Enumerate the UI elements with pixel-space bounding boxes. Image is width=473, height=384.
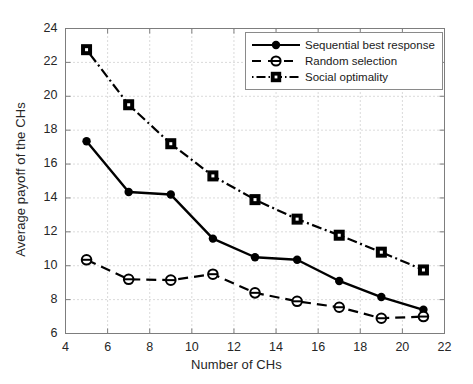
data-point-marker [377,313,387,323]
y-tick-label: 20 [28,88,58,102]
x-tick-label: 22 [430,340,460,354]
y-tick-label: 16 [28,156,58,170]
data-point-marker [82,45,92,55]
x-tick-label: 12 [219,340,249,354]
x-tick-label: 8 [135,340,165,354]
legend-item-random-selection: Random selection [250,53,437,69]
legend-item-sequential-best-response: Sequential best response [250,37,437,53]
legend-label: Sequential best response [302,39,435,51]
series-line [87,141,424,310]
data-point-marker [82,255,92,265]
y-tick-label: 10 [28,258,58,272]
x-tick-label: 18 [345,340,375,354]
legend-label: Social optimality [302,71,388,83]
y-tick-label: 12 [28,224,58,238]
legend-sample-dashed-circle-icon [250,53,302,69]
data-point-marker [250,288,260,298]
x-tick-label: 20 [387,340,417,354]
y-tick-label: 18 [28,122,58,136]
legend-label: Random selection [302,55,397,67]
data-point-marker [166,275,176,285]
data-point-marker [334,302,344,312]
data-point-marker [167,190,175,198]
data-point-marker [292,214,302,224]
data-point-marker [334,230,344,240]
y-tick-label: 14 [28,190,58,204]
data-point-marker [419,312,429,322]
x-tick-label: 14 [261,340,291,354]
data-point-marker [124,274,134,284]
y-axis-label: Average payoff of the CHs [13,10,28,350]
data-point-marker [166,139,176,149]
data-point-marker [377,247,387,257]
x-axis-label: Number of CHs [0,357,473,372]
legend-sample-dashdot-square-icon [250,69,302,85]
legend-item-social-optimality: Social optimality [250,69,437,85]
data-point-marker [208,171,218,181]
data-point-marker [251,253,259,261]
data-point-marker [377,293,385,301]
y-tick-label: 22 [28,54,58,68]
x-tick-label: 4 [51,340,81,354]
chart-figure: Average payoff of the CHs Number of CHs … [0,0,473,384]
y-tick-label: 8 [28,292,58,306]
data-point-marker [293,256,301,264]
data-point-marker [335,277,343,285]
data-point-marker [250,195,260,205]
data-point-marker [124,100,134,110]
data-point-marker [124,188,132,196]
data-point-marker [208,269,218,279]
data-point-marker [419,265,429,275]
data-point-marker [82,137,90,145]
y-tick-label: 6 [28,326,58,340]
x-tick-label: 6 [93,340,123,354]
data-point-marker [209,234,217,242]
chart-legend: Sequential best response Random selectio… [245,32,443,90]
legend-sample-solid-diamond-icon [250,37,302,53]
x-tick-label: 10 [177,340,207,354]
x-tick-label: 16 [303,340,333,354]
y-axis-label-container: Average payoff of the CHs [0,0,30,384]
data-point-marker [292,297,302,307]
y-tick-label: 24 [28,21,58,35]
